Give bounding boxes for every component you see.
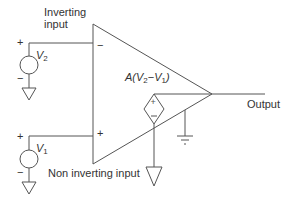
inverting-input-label: Inverting input [44, 6, 86, 30]
inverting-label-line1: Inverting [44, 6, 86, 18]
v2-plus: + [17, 36, 23, 48]
op-amp-diagram: + Inverting input + − V2 − + A(V2−V1) + … [0, 0, 291, 208]
output-label: Output [247, 98, 280, 110]
gain-expression: A(V2−V1) [125, 71, 170, 87]
v2-ground-icon [22, 88, 36, 100]
v2-label: V2 [36, 49, 48, 65]
v1-ground-icon [22, 182, 36, 194]
inverting-label-line2: input [44, 18, 86, 30]
v2-minus: − [17, 72, 23, 84]
v1-label: V1 [36, 142, 48, 158]
svg-text:+: + [151, 97, 156, 107]
v1-minus: − [17, 166, 23, 178]
dependent-ground-icon [146, 167, 162, 186]
noninverting-pin-sign: + [97, 127, 103, 139]
inverting-pin-sign: − [97, 39, 103, 51]
v1-plus: + [17, 130, 23, 142]
non-inverting-input-label: Non inverting input [48, 167, 140, 179]
